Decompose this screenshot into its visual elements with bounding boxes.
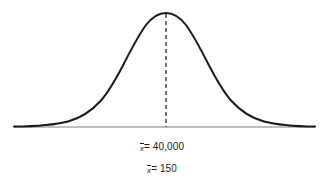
x-bar-symbol: x — [147, 166, 151, 175]
mean-sample-label: x= 150 — [0, 163, 324, 175]
mean-value-text: = 40,000 — [144, 141, 184, 152]
bell-curve-path — [14, 13, 315, 127]
x-bar-symbol: x — [140, 144, 144, 153]
mean-sample-text: = 150 — [151, 163, 177, 174]
mean-value-label: x= 40,000 — [0, 141, 324, 153]
distribution-chart-svg — [0, 0, 324, 188]
normal-distribution-figure: x= 40,000 x= 150 — [0, 0, 324, 188]
